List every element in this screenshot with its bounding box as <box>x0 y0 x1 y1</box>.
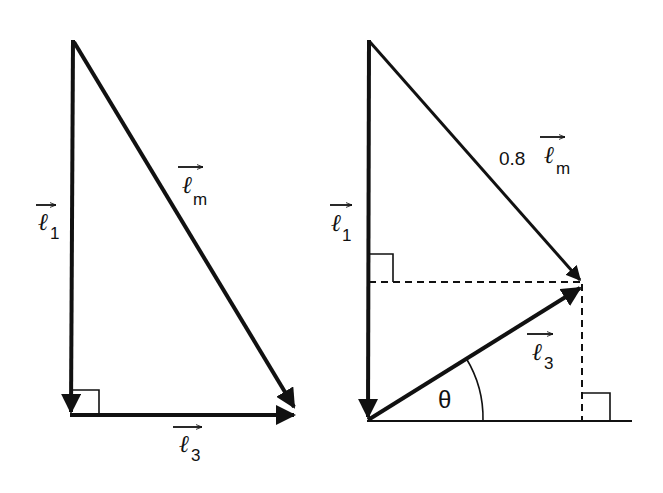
right-label-0.8lm: 0.8 ℓ m <box>499 137 570 178</box>
left-panel: ℓ 1 ℓ m ℓ 3 <box>36 40 294 465</box>
theta-angle-arc <box>466 358 483 421</box>
vector-diagram: ℓ 1 ℓ m ℓ 3 θ <box>0 0 663 493</box>
svg-text:3: 3 <box>544 354 553 373</box>
svg-text:1: 1 <box>50 224 59 243</box>
right-panel: θ ℓ 1 0.8 ℓ m ℓ 3 <box>330 40 632 421</box>
left-vector-l1 <box>71 40 73 412</box>
left-right-angle-marker <box>73 390 99 415</box>
right-angle-marker-upper <box>369 254 393 282</box>
left-label-l3: ℓ 3 <box>173 427 202 465</box>
svg-text:ℓ: ℓ <box>38 208 48 236</box>
left-label-l1: ℓ 1 <box>36 205 59 243</box>
svg-text:ℓ: ℓ <box>532 338 542 366</box>
svg-text:ℓ: ℓ <box>182 171 192 199</box>
right-angle-marker-lower <box>582 393 610 421</box>
right-label-l3: ℓ 3 <box>527 334 553 373</box>
svg-text:ℓ: ℓ <box>331 209 341 237</box>
svg-text:3: 3 <box>191 446 200 465</box>
theta-label: θ <box>438 386 451 413</box>
svg-text:ℓ: ℓ <box>179 430 189 458</box>
svg-text:m: m <box>556 159 570 178</box>
svg-text:ℓ: ℓ <box>544 141 554 169</box>
right-vector-l1 <box>368 40 369 417</box>
right-label-l1: ℓ 1 <box>330 205 352 245</box>
coefficient-label: 0.8 <box>499 148 525 169</box>
left-vector-lm <box>74 42 294 407</box>
svg-text:m: m <box>193 190 207 209</box>
svg-text:1: 1 <box>342 226 351 245</box>
left-label-lm: ℓ m <box>178 167 207 209</box>
